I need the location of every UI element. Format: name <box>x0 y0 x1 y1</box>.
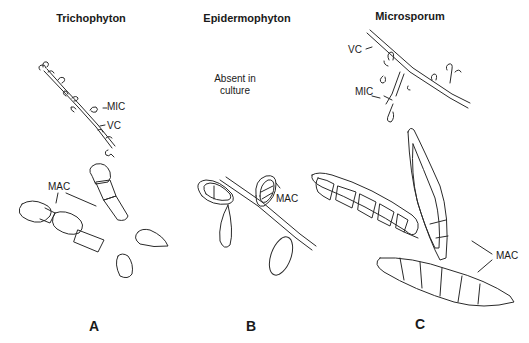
microsporum-macroconidia <box>312 128 514 306</box>
fungal-morphology-drawing <box>0 0 529 343</box>
microsporum-hypha <box>366 30 470 122</box>
trichophyton-hypha <box>39 62 115 157</box>
trichophyton-macroconidia <box>19 164 168 278</box>
epidermophyton-macroconidia <box>198 176 316 279</box>
